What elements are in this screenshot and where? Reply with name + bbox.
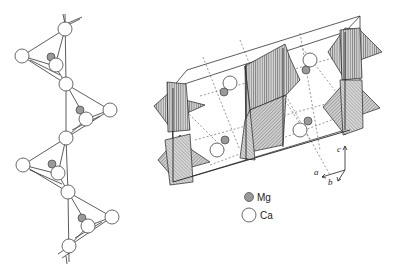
mg-atom xyxy=(302,66,310,74)
legend-mg-label: Mg xyxy=(257,192,271,203)
legend-ca-label: Ca xyxy=(260,210,273,221)
crystal-axes xyxy=(322,146,347,181)
chain-ca-atoms xyxy=(15,22,119,253)
ca-atom xyxy=(105,210,119,224)
ca-atom xyxy=(103,103,117,117)
ca-atom xyxy=(210,143,224,157)
ca-atom xyxy=(59,131,73,145)
ca-atom xyxy=(16,158,30,172)
ca-atom xyxy=(79,112,93,126)
unit-cell xyxy=(154,16,382,185)
polyhedron-middle xyxy=(240,44,300,160)
ca-atom xyxy=(81,219,95,233)
ca-atom xyxy=(51,166,65,180)
axis-label-b: b xyxy=(328,177,333,187)
legend-mg-swatch xyxy=(245,193,254,202)
axis-label-c: c xyxy=(337,144,341,154)
ca-atom xyxy=(62,239,76,253)
mg-atom xyxy=(304,117,312,125)
mg-atom xyxy=(220,88,228,96)
crystal-structure-diagram: c a b Mg Ca xyxy=(0,0,393,269)
ca-atom xyxy=(15,49,29,63)
ca-atom xyxy=(59,77,73,91)
ca-atom xyxy=(61,185,75,199)
legend: Mg Ca xyxy=(242,192,273,222)
axis-label-a: a xyxy=(314,167,319,177)
ca-atom xyxy=(49,58,63,72)
mg-atom xyxy=(221,136,229,144)
polyhedron-left xyxy=(154,82,210,185)
ca-atom xyxy=(293,123,307,137)
ca-atom xyxy=(58,22,72,36)
polyhedron-right xyxy=(323,28,382,135)
ca-atom xyxy=(303,53,317,67)
legend-ca-swatch xyxy=(242,208,256,222)
